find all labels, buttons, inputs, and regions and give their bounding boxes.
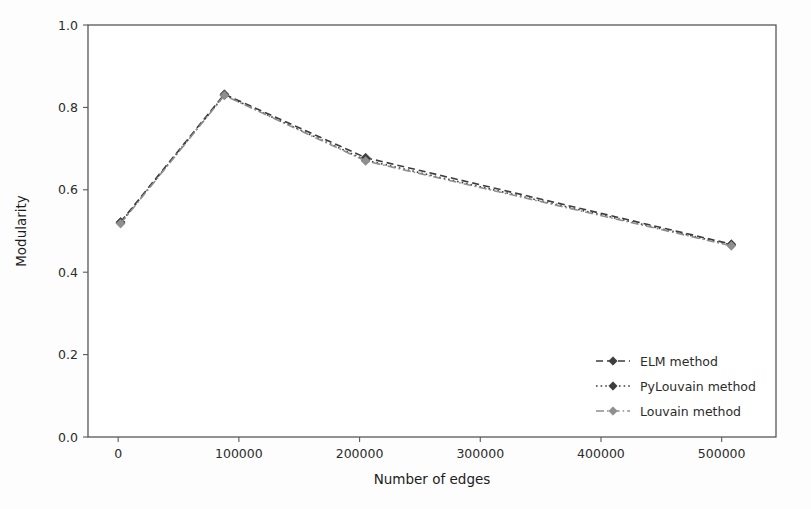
y-tick-label: 0.6 bbox=[58, 182, 78, 197]
x-tick-label: 500000 bbox=[698, 446, 746, 461]
y-axis-title: Modularity bbox=[13, 195, 29, 267]
x-tick-label: 400000 bbox=[577, 446, 625, 461]
chart-legend[interactable]: ELM methodPyLouvain methodLouvain method bbox=[586, 344, 766, 424]
legend-label: Louvain method bbox=[640, 404, 741, 419]
y-tick-label: 0.2 bbox=[58, 347, 78, 362]
modularity-vs-edges-line-chart: 0100000200000300000400000500000 0.00.20.… bbox=[0, 0, 811, 509]
legend-label: PyLouvain method bbox=[640, 379, 756, 394]
x-tick-label: 0 bbox=[114, 446, 122, 461]
legend-label: ELM method bbox=[640, 354, 718, 369]
chart-figure: 0100000200000300000400000500000 0.00.20.… bbox=[0, 0, 811, 509]
y-tick-label: 0.8 bbox=[58, 100, 78, 115]
x-tick-label: 300000 bbox=[456, 446, 504, 461]
x-tick-label: 200000 bbox=[336, 446, 384, 461]
y-tick-label: 0.4 bbox=[58, 265, 78, 280]
y-tick-label: 0.0 bbox=[58, 430, 78, 445]
y-tick-label: 1.0 bbox=[58, 18, 78, 33]
x-tick-label: 100000 bbox=[215, 446, 263, 461]
x-axis-title: Number of edges bbox=[374, 471, 491, 487]
